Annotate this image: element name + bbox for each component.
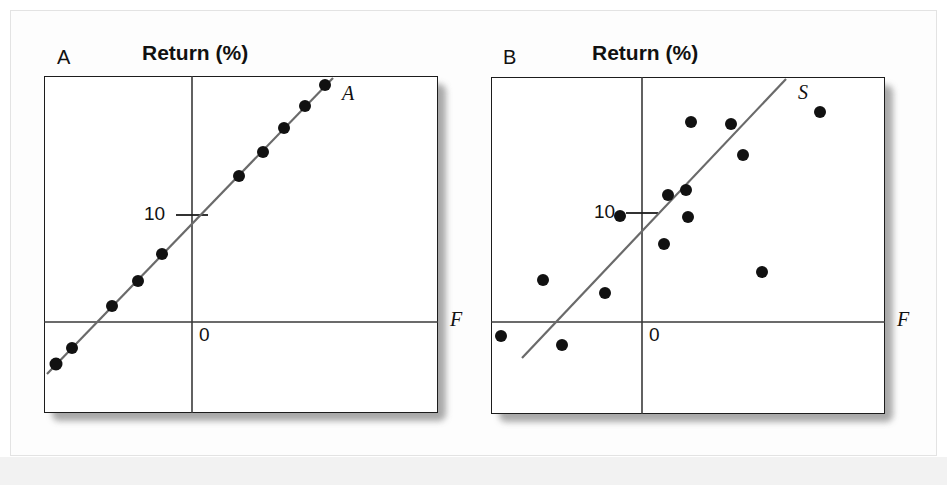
data-point <box>614 210 626 222</box>
data-point <box>132 275 144 287</box>
panel-a-letter: A <box>57 46 71 69</box>
figure-root: 10 0 A A Return (%) F <box>0 0 947 485</box>
data-point <box>737 149 749 161</box>
data-point <box>680 184 692 196</box>
panel-a-title: Return (%) <box>142 41 248 65</box>
panel-b-series-label: S <box>798 81 808 104</box>
data-point <box>756 266 768 278</box>
data-point <box>278 122 290 134</box>
panel-b-origin-label: 0 <box>649 324 660 346</box>
data-point <box>556 339 568 351</box>
panel-b-fit-line <box>522 79 786 358</box>
data-point <box>814 106 826 118</box>
data-point <box>537 274 549 286</box>
data-point <box>156 248 168 260</box>
data-point <box>685 116 697 128</box>
panel-a-x-axis-label: F <box>450 308 462 331</box>
panel-a-plot <box>44 76 438 413</box>
panel-b-plot <box>491 77 885 414</box>
data-point <box>257 146 269 158</box>
panel-b-letter: B <box>503 46 517 69</box>
panel-b: 10 0 S <box>491 77 885 414</box>
panel-b-x-axis-label: F <box>897 308 909 331</box>
page-bottom-band <box>0 457 947 485</box>
data-point <box>66 342 78 354</box>
panel-a: 10 0 A <box>44 76 438 413</box>
data-point <box>106 300 118 312</box>
panel-a-fit-line <box>47 78 333 374</box>
data-point <box>725 118 737 130</box>
data-point <box>319 79 331 91</box>
data-point <box>495 330 507 342</box>
panel-b-tick-label-10: 10 <box>594 201 615 223</box>
data-point <box>658 238 670 250</box>
panel-a-tick-label-10: 10 <box>144 203 165 225</box>
data-point <box>662 189 674 201</box>
data-point <box>50 358 63 371</box>
data-point <box>682 211 694 223</box>
data-point <box>299 100 311 112</box>
data-point <box>233 170 245 182</box>
panel-b-title: Return (%) <box>592 41 698 65</box>
data-point <box>599 287 611 299</box>
panel-a-series-label: A <box>342 82 354 105</box>
panel-b-data-points <box>495 106 826 351</box>
panel-a-origin-label: 0 <box>199 324 210 346</box>
